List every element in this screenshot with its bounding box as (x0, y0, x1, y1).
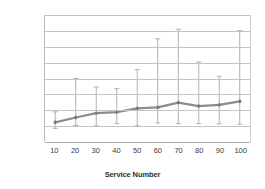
error-bar (196, 62, 201, 124)
data-point-marker (197, 104, 201, 108)
data-point-marker (53, 120, 57, 124)
x-axis-tick-labels: 102030405060708090100 (44, 146, 251, 160)
gridline (45, 94, 250, 95)
gridline (45, 79, 250, 80)
chart-container: |ParallelSets| 0,005,0010,0015,0020,0025… (0, 0, 265, 189)
data-point-marker (238, 99, 242, 103)
data-point-marker (74, 115, 78, 119)
x-axis-title: Service Number (0, 170, 265, 179)
gridline (45, 126, 250, 127)
x-axis-tick-label: 100 (229, 146, 253, 155)
gridline (45, 47, 250, 48)
gridline (45, 63, 250, 64)
error-bar (217, 76, 222, 124)
gridline (45, 142, 250, 143)
data-point-marker (94, 111, 98, 115)
data-point-marker (156, 105, 160, 109)
error-bar (94, 87, 99, 126)
data-point-marker (217, 103, 221, 107)
gridline (45, 15, 250, 16)
data-point-marker (176, 100, 180, 104)
gridline (45, 31, 250, 32)
series-line (55, 101, 240, 122)
gridline (45, 110, 250, 111)
plot-area: 0,005,0010,0015,0020,0025,0030,0035,0040… (44, 15, 251, 142)
